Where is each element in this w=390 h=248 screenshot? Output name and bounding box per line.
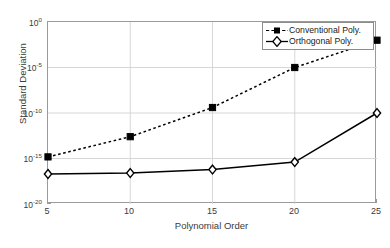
figure-canvas: Standard Deviation 100 10-5 10-10 10-15 …: [0, 0, 390, 248]
y-tick-label-2: 10-10: [0, 107, 42, 119]
x-tick-label-3: 20: [281, 206, 307, 216]
y-tick-exponent-1: -5: [36, 61, 42, 68]
y-axis-label: Standard Deviation: [17, 14, 28, 154]
y-tick-exponent-3: -15: [33, 152, 42, 159]
x-tick-label-0: 5: [34, 206, 60, 216]
y-tick-exponent-0: 0: [39, 16, 42, 23]
y-tick-mantissa-0: 10: [29, 18, 38, 28]
x-tick-label-4: 25: [363, 206, 389, 216]
y-tick-label-0: 100: [0, 16, 42, 28]
x-tick-label-2: 15: [199, 206, 225, 216]
y-tick-exponent-2: -10: [33, 107, 42, 114]
y-tick-exponent-4: -20: [33, 198, 42, 205]
legend-label-conventional-poly: Conventional Poly.: [289, 25, 361, 36]
y-tick-mantissa-2: 10: [24, 109, 33, 119]
y-tick-mantissa-4: 10: [24, 200, 33, 210]
x-tick-label-1: 10: [116, 206, 142, 216]
x-axis-label: Polynomial Order: [47, 220, 376, 231]
y-tick-mantissa-3: 10: [24, 154, 33, 164]
legend-label-orthogonal-poly: Orthogonal Poly.: [289, 36, 353, 47]
legend-marker-filled-square-dashed: [265, 25, 289, 36]
legend-item-conventional-poly[interactable]: Conventional Poly.: [265, 25, 370, 36]
y-tick-label-3: 10-15: [0, 152, 42, 164]
y-tick-label-1: 10-5: [0, 61, 42, 73]
legend-item-orthogonal-poly[interactable]: Orthogonal Poly.: [265, 36, 370, 47]
legend: Conventional Poly. Orthogonal Poly.: [262, 22, 374, 50]
legend-marker-open-diamond-solid: [265, 36, 289, 47]
